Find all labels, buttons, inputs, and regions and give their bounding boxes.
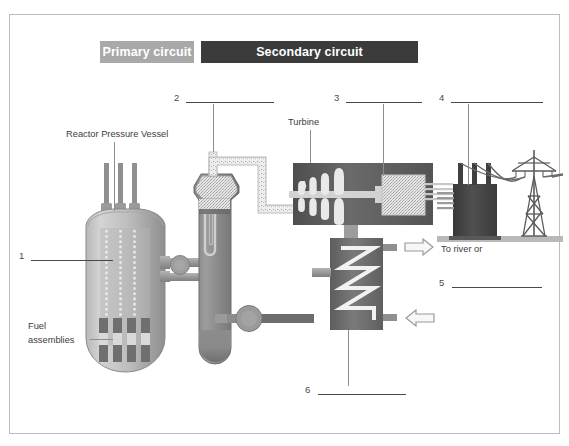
answer-line-3[interactable] [346,102,422,103]
control-rod-drives [101,163,140,212]
leader-turbine [310,130,311,163]
answer-line-5[interactable] [452,287,542,288]
leader-6 [348,330,349,386]
arrow-outlet-to-river [405,239,433,255]
condenser-neck [344,225,358,239]
leader-4 [468,104,469,185]
label-fuel-assemblies-line2: assemblies [28,334,75,346]
label-fuel-assemblies-line1: Fuel [28,320,46,332]
reactor-coolant-pump [171,256,190,275]
badge-primary-circuit: Primary circuit [100,41,194,63]
label-reactor-pressure-vessel: Reactor Pressure Vessel [66,128,168,140]
leader-fuel-assemblies [90,339,113,340]
transmission-pylon [512,150,556,236]
arrow-inlet-from-river [406,310,434,326]
generator [382,175,425,215]
answer-number-5: 5 [439,277,444,288]
reactor-pressure-vessel [86,163,170,372]
answer-line-6[interactable] [318,394,406,395]
steam-generator [194,174,239,364]
badge-secondary-circuit: Secondary circuit [201,41,418,63]
label-turbine: Turbine [288,116,319,128]
label-to-river: To river or [441,243,482,255]
feedwater-line [215,314,314,323]
answer-number-6: 6 [305,384,310,395]
answer-line-4[interactable] [451,102,543,103]
leader-reactor-pressure-vessel [114,142,115,211]
diagram-canvas: Primary circuit Secondary circuit Reacto… [0,0,569,446]
answer-line-2[interactable] [186,102,274,103]
leader-3 [383,104,384,176]
condenser [312,238,397,330]
leader-2 [213,104,214,152]
nuclear-plant-artwork [0,0,569,446]
answer-number-2: 2 [174,92,179,103]
answer-number-1: 1 [19,250,24,261]
transformer-bushing-2 [472,163,477,185]
leader-1 [31,260,113,261]
feedwater-pump [236,306,262,332]
transformer-bushing-1 [458,163,463,185]
answer-number-3: 3 [334,92,339,103]
turbine-hall [289,163,453,239]
answer-number-4: 4 [439,92,444,103]
cooling-water-arrows [405,239,434,326]
